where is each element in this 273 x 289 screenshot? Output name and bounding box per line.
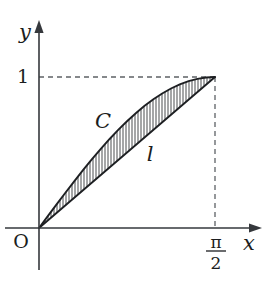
- curve-label-l: l: [147, 142, 154, 166]
- origin-label: O: [13, 230, 29, 252]
- fraction-numerator: π: [210, 232, 221, 252]
- y-axis-arrow-icon: [34, 20, 43, 33]
- fraction-denominator: 2: [211, 253, 222, 273]
- x-tick-label-pi-over-2: π 2: [206, 232, 226, 273]
- figure-root: y x O 1 π 2 C l: [0, 0, 273, 289]
- y-axis-label: y: [18, 20, 32, 44]
- line-l-chord: [39, 77, 215, 228]
- y-tick-label-one: 1: [17, 65, 29, 87]
- curve-label-c: C: [95, 109, 111, 133]
- x-axis-label: x: [243, 231, 255, 255]
- sine-chord-diagram: y x O 1 π 2 C l: [0, 0, 273, 289]
